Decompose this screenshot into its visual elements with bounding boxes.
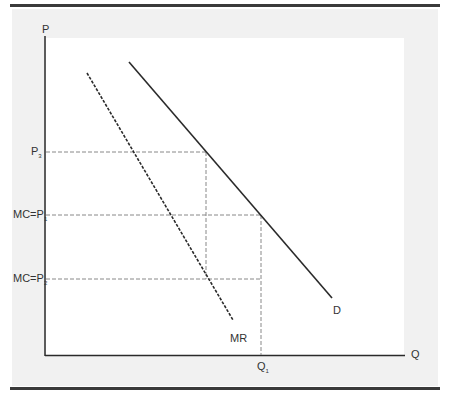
price-label-mc-p2: MC=P2 bbox=[13, 273, 47, 286]
demand-curve-label: D bbox=[333, 305, 341, 316]
monopoly-diagram bbox=[0, 0, 451, 395]
quantity-label-q1: Q1 bbox=[257, 361, 269, 374]
mr-curve bbox=[87, 73, 233, 320]
price-label-p3: P3 bbox=[31, 146, 42, 159]
x-axis-label: Q bbox=[411, 349, 420, 360]
y-axis-label: P bbox=[42, 24, 49, 35]
demand-curve bbox=[129, 62, 332, 298]
mr-curve-label: MR bbox=[230, 333, 247, 344]
price-label-mc-p1: MC=P1 bbox=[13, 209, 47, 222]
bottom-rule bbox=[10, 387, 440, 390]
